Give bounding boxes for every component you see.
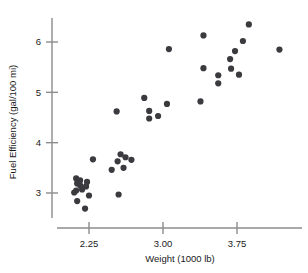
data-point (120, 165, 126, 171)
data-point (115, 158, 121, 164)
data-point (84, 179, 90, 185)
y-axis-title: Fuel Efficiency (gal/100 mi) (7, 65, 18, 179)
data-point (200, 32, 206, 38)
data-point (114, 108, 120, 114)
data-point (86, 192, 92, 198)
x-tick-group: 2.253.003.75 (80, 222, 247, 249)
data-point (276, 46, 282, 52)
data-point (116, 191, 122, 197)
y-tick-label: 6 (36, 36, 41, 47)
scatter-plot-figure: 3456 2.253.003.75 Weight (1000 lb) Fuel … (0, 0, 308, 273)
data-point (73, 187, 79, 193)
data-point (141, 95, 147, 101)
y-tick-label: 4 (36, 137, 41, 148)
data-point (109, 167, 115, 173)
data-point (197, 98, 203, 104)
data-point (122, 154, 128, 160)
data-point (82, 206, 88, 212)
data-point (240, 38, 246, 44)
data-point (77, 177, 83, 183)
data-point (146, 115, 152, 121)
data-point (215, 72, 221, 78)
data-point (200, 65, 206, 71)
x-axis-title: Weight (1000 lb) (145, 253, 215, 264)
data-point (166, 46, 172, 52)
data-point (215, 80, 221, 86)
y-tick-group: 3456 (36, 36, 58, 198)
y-tick-label: 5 (36, 87, 41, 98)
y-axis: 3456 (36, 18, 58, 218)
x-tick-label: 3.75 (228, 238, 247, 249)
data-point (146, 108, 152, 114)
data-point (228, 66, 234, 72)
data-point (227, 56, 233, 62)
data-point (74, 198, 80, 204)
data-point (128, 157, 134, 163)
data-point (232, 48, 238, 54)
data-point (246, 21, 252, 27)
x-tick-label: 3.00 (154, 238, 173, 249)
x-tick-label: 2.25 (80, 238, 99, 249)
data-point (236, 72, 242, 78)
data-point (90, 156, 96, 162)
x-axis: 2.253.003.75 (57, 222, 302, 249)
data-point (155, 113, 161, 119)
y-tick-label: 3 (36, 187, 41, 198)
plot-canvas: 3456 2.253.003.75 Weight (1000 lb) Fuel … (0, 0, 308, 273)
data-points-group (71, 21, 282, 211)
data-point (164, 101, 170, 107)
